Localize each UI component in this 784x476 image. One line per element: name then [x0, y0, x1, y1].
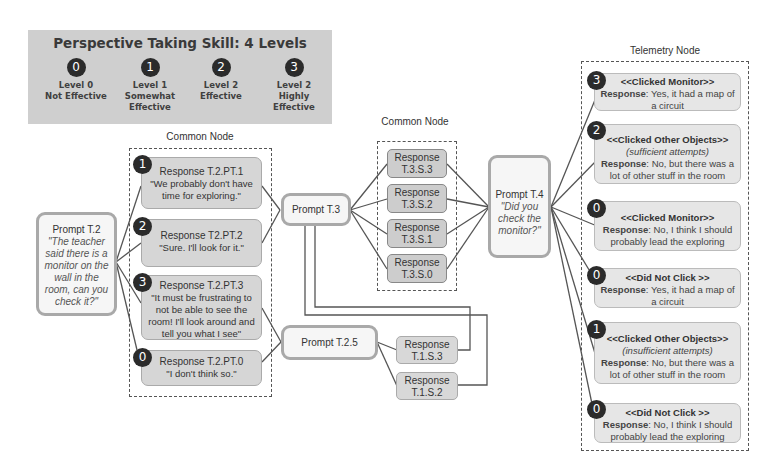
response-text: "We probably don't have — [142, 178, 261, 190]
response-text: not be able to see the — [142, 304, 261, 316]
level-2-badge-icon: 2 — [587, 121, 606, 140]
response-t3-s3: Response T.3.S.3 — [387, 149, 447, 178]
level-badge-icon: 1 — [141, 58, 160, 77]
response-id: T.1.S.3 — [397, 351, 457, 363]
response-title: Response T2.PT.2 — [142, 230, 261, 242]
prompt-quote: monitor on the — [39, 260, 114, 272]
prompt-quote: "The teacher — [39, 236, 114, 248]
prompt-title: Prompt T.3 — [284, 204, 348, 216]
legend-level-0: 0 Level 0 Not Effective — [40, 58, 112, 102]
level-1-badge-icon: 1 — [133, 155, 152, 174]
response-text: : Yes, it had a map of — [646, 88, 735, 99]
response-label: Response — [601, 158, 646, 169]
legend-level-3: 3 Level 2 Highly Effective — [258, 58, 330, 113]
response-text: probably lead the exploring — [595, 431, 740, 443]
level-label: Level 0 — [40, 80, 112, 91]
telemetry-attempt: (sufficient attempts) — [595, 146, 740, 158]
response-t3-s0: Response T.3.S.0 — [387, 254, 447, 283]
response-text: "Sure. I'll look for it." — [142, 242, 261, 254]
response-text: : No, I think I should — [648, 224, 732, 235]
legend-level-1: 1 Level 1 Somewhat Effective — [114, 58, 186, 113]
response-label: Response — [397, 375, 457, 387]
telemetry-item-4: <<Did Not Click >> Response: Yes, it had… — [594, 268, 741, 308]
prompt-t2: Prompt T.2 "The teacher said there is a … — [36, 212, 117, 316]
response-id: T.3.S.2 — [388, 199, 446, 211]
level-desc: Effective — [258, 102, 330, 113]
level-0-badge-icon: 0 — [587, 400, 606, 419]
response-label: Response — [388, 257, 446, 269]
telemetry-event: <<Clicked Monitor>> — [595, 212, 740, 224]
response-label: Response — [603, 224, 648, 235]
prompt-title: Prompt T.4 — [491, 189, 548, 201]
prompt-quote: "Did you — [491, 201, 548, 213]
level-0-badge-icon: 0 — [133, 348, 152, 367]
telemetry-item-2: <<Clicked Other Objects>> (sufficient at… — [594, 124, 741, 184]
response-label: Response — [600, 284, 645, 295]
response-text: probably lead the exploring — [595, 236, 740, 248]
prompt-t3: Prompt T.3 — [281, 193, 351, 226]
response-label: Response — [603, 419, 648, 430]
response-id: T.3.S.0 — [388, 269, 446, 281]
prompt-t2-5: Prompt T.2.5 — [281, 325, 378, 360]
legend-title: Perspective Taking Skill: 4 Levels — [28, 35, 332, 51]
response-t2-pt1: Response T.2.PT.1 "We probably don't hav… — [141, 157, 262, 209]
response-text: tell you what I see" — [142, 328, 261, 340]
response-text: room! I'll look around and — [142, 316, 261, 328]
response-t2-pt0: Response T.2.PT.0 "I don't think so." — [141, 350, 262, 386]
prompt-quote: said there is a — [39, 248, 114, 260]
prompt-quote: room, can you — [39, 284, 114, 296]
response-t2-pt2: Response T2.PT.2 "Sure. I'll look for it… — [141, 219, 262, 267]
response-text: lot of other stuff in the room — [595, 170, 740, 182]
level-0-badge-icon: 0 — [587, 266, 606, 285]
response-label: Response — [601, 357, 646, 368]
prompt-quote: monitor?" — [491, 225, 548, 237]
level-label: Level 2 — [258, 80, 330, 91]
response-t3-s1: Response T.3.S.1 — [387, 219, 447, 248]
response-text: "I don't think so." — [142, 368, 261, 380]
level-desc: Not Effective — [40, 91, 112, 102]
prompt-quote: wall in the — [39, 272, 114, 284]
response-text: : No, but there was a — [646, 158, 734, 169]
level-desc: Somewhat — [114, 91, 186, 102]
response-label: Response — [397, 339, 457, 351]
telemetry-item-5: <<Clicked Other Objects>> (insufficient … — [594, 322, 741, 384]
response-id: T.3.S.3 — [388, 164, 446, 176]
response-label: Response — [388, 222, 446, 234]
response-t1-s3: Response T.1.S.3 — [396, 336, 458, 364]
level-label: Level 2 — [185, 80, 257, 91]
telemetry-item-3: <<Clicked Monitor>> Response: No, I thin… — [594, 201, 741, 251]
telemetry-node-caption: Telemetry Node — [600, 45, 730, 56]
level-1-badge-icon: 1 — [587, 320, 606, 339]
prompt-quote: check the — [491, 213, 548, 225]
prompt-title: Prompt T.2 — [39, 224, 114, 236]
response-id: T.3.S.1 — [388, 234, 446, 246]
response-text: : No, but there was a — [646, 357, 734, 368]
telemetry-event: <<Clicked Other Objects>> — [595, 333, 740, 345]
level-label: Level 1 — [114, 80, 186, 91]
telemetry-node-group — [581, 61, 749, 451]
response-label: Response — [388, 152, 446, 164]
level-badge-icon: 0 — [67, 58, 86, 77]
skill-levels-legend: Perspective Taking Skill: 4 Levels 0 Lev… — [28, 30, 332, 124]
level-desc: Highly — [258, 91, 330, 102]
prompt-t4: Prompt T.4 "Did you check the monitor?" — [488, 155, 551, 258]
response-t2-pt3: Response T.2.PT.3 "It must be frustratin… — [141, 275, 262, 340]
telemetry-attempt: (insufficient attempts) — [595, 345, 740, 357]
legend-level-2: 2 Level 2 Effective — [185, 58, 257, 102]
response-t3-s2: Response T.3.S.2 — [387, 184, 447, 213]
telemetry-event: <<Did Not Click >> — [595, 407, 740, 419]
response-text: : No, I think I should — [648, 419, 732, 430]
response-text: time for exploring." — [142, 190, 261, 202]
level-3-badge-icon: 3 — [133, 273, 152, 292]
response-title: Response T.2.PT.1 — [142, 166, 261, 178]
prompt-quote: check it?" — [39, 296, 114, 308]
telemetry-event: <<Did Not Click >> — [595, 272, 740, 284]
response-label: Response — [388, 187, 446, 199]
level-3-badge-icon: 3 — [587, 71, 606, 90]
response-text: "It must be frustrating to — [142, 292, 261, 304]
telemetry-item-6: <<Did Not Click >> Response: No, I think… — [594, 403, 741, 443]
response-title: Response T.2.PT.3 — [142, 280, 261, 292]
common-node-caption: Common Node — [370, 116, 460, 127]
response-t1-s2: Response T.1.S.2 — [396, 372, 458, 400]
level-2-badge-icon: 2 — [133, 217, 152, 236]
